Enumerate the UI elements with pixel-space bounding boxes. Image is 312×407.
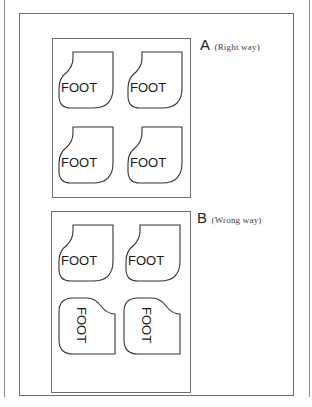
svg-text:FOOT: FOOT [61, 155, 97, 170]
page-edge-left [4, 0, 5, 397]
foot-piece-a2: FOOT [128, 52, 184, 110]
svg-text:FOOT: FOOT [130, 155, 166, 170]
panel-a-caption: (Right way) [214, 42, 259, 52]
panel-b-label: B (Wrong way) [197, 209, 262, 227]
panel-b-letter: B [197, 209, 207, 226]
svg-text:FOOT: FOOT [130, 80, 166, 95]
svg-text:FOOT: FOOT [128, 253, 164, 268]
svg-text:FOOT: FOOT [61, 253, 97, 268]
foot-piece-a4: FOOT [128, 127, 184, 185]
svg-text:FOOT: FOOT [74, 307, 89, 343]
foot-piece-b4-rotated: FOOT [124, 298, 182, 356]
svg-text:FOOT: FOOT [61, 80, 97, 95]
foot-piece-b1: FOOT [59, 225, 115, 283]
foot-piece-a3: FOOT [59, 127, 115, 185]
foot-piece-b3-rotated: FOOT [59, 298, 117, 356]
panel-b-caption: (Wrong way) [211, 215, 261, 225]
foot-piece-b2: FOOT [126, 225, 182, 283]
panel-a-label: A (Right way) [200, 36, 260, 54]
panel-a-letter: A [200, 36, 210, 53]
foot-piece-a1: FOOT [59, 52, 115, 110]
svg-text:FOOT: FOOT [139, 307, 154, 343]
page-edge-right [309, 0, 310, 397]
